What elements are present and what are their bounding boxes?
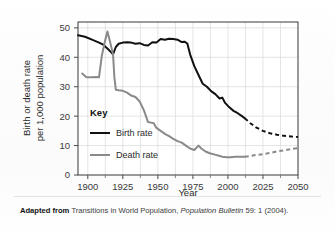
x-tick-label-2050: 2050 (287, 181, 308, 192)
line-chart: 1900192519501975200020252050 01020304050… (0, 0, 335, 200)
caption-divider (14, 196, 321, 197)
legend-label-death-rate: Death rate (116, 150, 158, 160)
x-tick-label-1900: 1900 (77, 181, 98, 192)
y-tick-label-30: 30 (59, 81, 70, 92)
x-tick-label-1950: 1950 (147, 181, 168, 192)
y-axis-title-line2: per 1,000 population (34, 55, 45, 142)
y-tick-label-10: 10 (59, 140, 70, 151)
x-tick-label-1925: 1925 (112, 181, 133, 192)
x-tick-label-2025: 2025 (252, 181, 273, 192)
caption-source-italic: Population Bulletin (180, 206, 243, 215)
caption-source-rest: 59: 1 (2004). (243, 206, 288, 215)
y-axis-title-line1: Birth or death rate (21, 60, 32, 136)
legend-title: Key (90, 107, 108, 118)
y-tick-label-0: 0 (65, 169, 70, 180)
y-tick-label-20: 20 (59, 111, 70, 122)
y-tick-label-40: 40 (59, 52, 70, 63)
y-axis-ticks: 01020304050 (59, 22, 78, 180)
caption-source-title: Transitions in World Population, (71, 206, 180, 215)
caption-prefix: Adapted from (20, 206, 71, 215)
legend-label-birth-rate: Birth rate (116, 128, 153, 138)
x-tick-label-2000: 2000 (217, 181, 238, 192)
figure: 1900192519501975200020252050 01020304050… (0, 0, 335, 241)
y-tick-label-50: 50 (59, 22, 70, 33)
figure-caption: Adapted from Transitions in World Popula… (20, 205, 320, 216)
figure-screenshot: 1900192519501975200020252050 01020304050… (0, 0, 335, 241)
